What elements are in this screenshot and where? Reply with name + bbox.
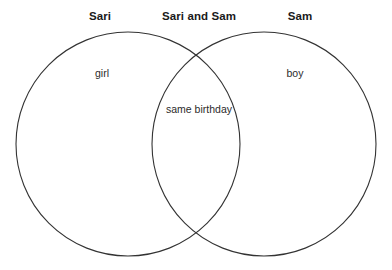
region-label-right-only: boy [287,67,304,80]
venn-circle-left-sari [16,32,240,256]
header-label-sari-and-sam: Sari and Sam [162,9,236,23]
venn-diagram-page: Sari Sari and Sam Sam girl same birthday… [0,0,392,270]
region-label-left-only: girl [95,67,109,80]
venn-circle-right-sam [152,32,376,256]
region-label-intersection: same birthday [166,103,232,116]
header-label-sam: Sam [288,9,313,23]
venn-diagram-canvas [0,0,392,270]
header-label-sari: Sari [89,9,111,23]
